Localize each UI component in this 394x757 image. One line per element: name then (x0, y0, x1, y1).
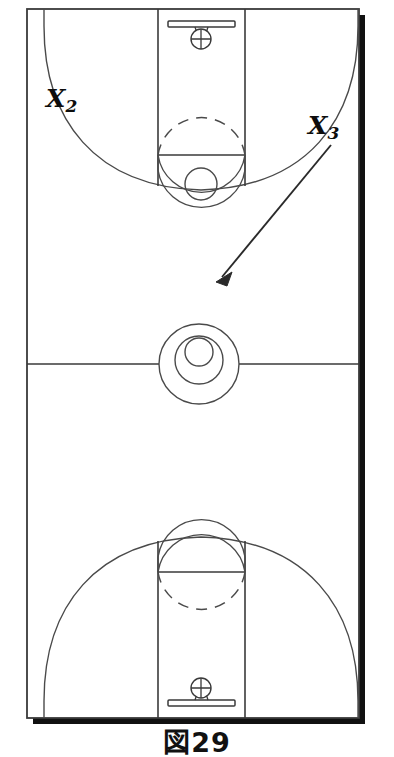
backboard-icon (168, 700, 235, 706)
player-symbol-x2: X (44, 84, 67, 113)
player-subscript-x2: 2 (64, 96, 77, 116)
player-symbol-x3: X (306, 111, 329, 140)
figure-caption: 図29 (0, 728, 394, 757)
basketball-court-diagram: X2 X3 (0, 0, 394, 757)
figure-container: X2 X3 図29 (0, 0, 394, 757)
player-subscript-x3: 3 (327, 123, 339, 143)
backboard-icon (168, 21, 235, 27)
